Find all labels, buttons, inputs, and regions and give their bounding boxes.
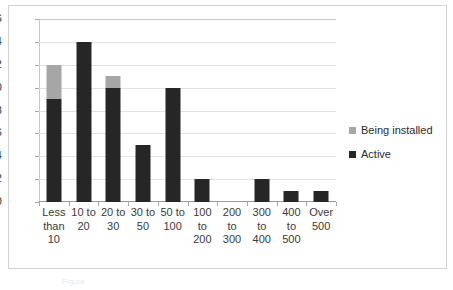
- x-axis-tick-label-line: 400: [247, 233, 277, 247]
- x-axis-tick-label-line: to: [217, 220, 247, 234]
- bar-slot: [306, 19, 336, 202]
- y-axis-tick-label: 8: [0, 105, 2, 117]
- x-axis-tick-label-line: to: [188, 220, 218, 234]
- bar-segment-active: [76, 42, 91, 202]
- legend-swatch-icon: [349, 151, 356, 158]
- legend-item[interactable]: Active: [349, 148, 444, 160]
- x-axis-tick-label-line: 100: [188, 206, 218, 220]
- x-axis-tick-label-line: 30: [98, 220, 128, 234]
- x-axis-tick-label-line: than: [39, 220, 69, 234]
- chart-legend: Being installedActive: [349, 124, 444, 172]
- bar-slot: [128, 19, 158, 202]
- x-axis-tick-label-line: to: [247, 220, 277, 234]
- x-axis-tick-label-line: 30 to: [128, 206, 158, 220]
- bar-slot: [39, 19, 69, 202]
- x-axis-tick-label-line: 10 to: [69, 206, 99, 220]
- x-axis-tick-label-line: 20: [69, 220, 99, 234]
- bar-segment-active: [106, 88, 121, 202]
- x-axis-tick-label-line: 100: [158, 220, 188, 234]
- bar-segment-being-installed: [106, 76, 121, 87]
- chart-frame: 1614121086420 Lessthan1010 to2020 to3030…: [8, 5, 447, 269]
- x-axis-tick-label: 400to500: [277, 206, 307, 247]
- bar-segment-active: [165, 88, 180, 202]
- y-axis-tick-label: 16: [0, 13, 2, 25]
- x-axis-tick-label-line: 20 to: [98, 206, 128, 220]
- bar-slot: [158, 19, 188, 202]
- y-axis-tick-label: 6: [0, 127, 2, 139]
- x-axis-tick-label-line: 500: [306, 220, 336, 234]
- x-axis-tick-label: 200to300: [217, 206, 247, 247]
- x-axis-tick-label-line: to: [277, 220, 307, 234]
- bar-slot: [69, 19, 99, 202]
- bar-slot: [247, 19, 277, 202]
- x-axis-tick-label-line: 50: [128, 220, 158, 234]
- y-axis-tick-label: 4: [0, 150, 2, 162]
- x-axis-tick-label-line: 200: [188, 233, 218, 247]
- y-axis-tick-label: 12: [0, 59, 2, 71]
- plot-area: 1614121086420: [39, 19, 336, 202]
- bar-segment-active: [284, 191, 299, 202]
- x-axis-tick-label: 50 to100: [158, 206, 188, 233]
- x-axis-tick-labels: Lessthan1010 to2020 to3030 to5050 to1001…: [39, 206, 336, 262]
- x-axis-tick-label-line: 500: [277, 233, 307, 247]
- x-axis-tick-label: 30 to50: [128, 206, 158, 233]
- y-axis-tick-label: 0: [0, 196, 2, 208]
- x-axis-tick-label-line: 300: [247, 206, 277, 220]
- x-axis-tick-mark: [336, 202, 337, 206]
- legend-item[interactable]: Being installed: [349, 124, 444, 136]
- x-axis-tick-label-line: Less: [39, 206, 69, 220]
- bar-segment-active: [314, 191, 329, 202]
- x-axis-tick-label: 20 to30: [98, 206, 128, 233]
- x-axis-tick-label: 10 to20: [69, 206, 99, 233]
- bar-segment-active: [135, 145, 150, 202]
- bar-slot: [217, 19, 247, 202]
- bar-slot: [277, 19, 307, 202]
- bar-slot: [188, 19, 218, 202]
- y-axis-tick-label: 14: [0, 36, 2, 48]
- legend-swatch-icon: [349, 127, 356, 134]
- x-axis-tick-label: Lessthan10: [39, 206, 69, 247]
- legend-label: Being installed: [361, 124, 433, 136]
- x-axis-tick-label-line: 200: [217, 206, 247, 220]
- x-axis-tick-label: 300to400: [247, 206, 277, 247]
- legend-label: Active: [361, 148, 391, 160]
- x-axis-tick-label-line: 10: [39, 233, 69, 247]
- x-axis-tick-label: Over500: [306, 206, 336, 233]
- y-axis-tick-label: 2: [0, 173, 2, 185]
- bar-segment-active: [254, 179, 269, 202]
- x-axis-tick-label: 100to200: [188, 206, 218, 247]
- x-axis-tick-label-line: Over: [306, 206, 336, 220]
- y-axis-tick-label: 10: [0, 82, 2, 94]
- bar-segment-active: [46, 99, 61, 202]
- bar-segment-being-installed: [46, 65, 61, 99]
- x-axis-tick-label-line: 400: [277, 206, 307, 220]
- x-axis-tick-label-line: 300: [217, 233, 247, 247]
- figure-caption: Figure: [62, 277, 262, 286]
- x-axis-tick-label-line: 50 to: [158, 206, 188, 220]
- bar-slot: [98, 19, 128, 202]
- bar-segment-active: [195, 179, 210, 202]
